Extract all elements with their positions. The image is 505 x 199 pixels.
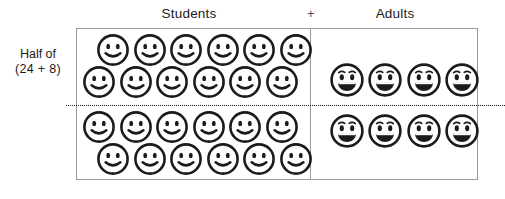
group-label-students: Students (162, 6, 217, 21)
caption-line-1: Half of (4, 47, 72, 62)
smiley-face-eyebrows-icon (329, 113, 365, 149)
smiley-face-icon (96, 33, 130, 67)
smiley-face-icon (96, 142, 130, 176)
smiley-face-icon (228, 110, 262, 144)
student-face-row (96, 33, 313, 67)
smiley-face-eyebrows-icon (406, 113, 442, 149)
smiley-face-icon (133, 33, 167, 67)
smiley-face-icon (169, 33, 203, 67)
smiley-face-icon (265, 65, 299, 99)
adult-face-row (329, 62, 480, 98)
student-face-row (82, 110, 299, 144)
smiley-face-icon (206, 33, 240, 67)
smiley-face-icon (82, 110, 116, 144)
smiley-face-icon (82, 65, 116, 99)
smiley-face-icon (242, 142, 276, 176)
smiley-face-icon (192, 65, 226, 99)
caption-half-of: Half of (24 + 8) (4, 47, 72, 77)
plus-operator: + (307, 6, 315, 21)
smiley-face-icon (265, 110, 299, 144)
smiley-face-eyebrows-icon (329, 62, 365, 98)
smiley-face-eyebrows-icon (406, 62, 442, 98)
group-label-adults: Adults (376, 6, 415, 21)
adult-face-row (329, 113, 480, 149)
smiley-face-eyebrows-icon (444, 62, 480, 98)
pictograph-diagram: Students + Adults Half of (24 + 8) (0, 0, 505, 199)
smiley-face-eyebrows-icon (367, 113, 403, 149)
student-face-row (96, 142, 313, 176)
smiley-face-icon (155, 65, 189, 99)
caption-line-2: (24 + 8) (4, 62, 72, 77)
student-face-row (82, 65, 299, 99)
panel-adults (310, 28, 478, 180)
half-divider-line (66, 105, 505, 106)
smiley-face-eyebrows-icon (444, 113, 480, 149)
smiley-face-icon (279, 33, 313, 67)
smiley-face-icon (279, 142, 313, 176)
smiley-face-icon (192, 110, 226, 144)
smiley-face-icon (206, 142, 240, 176)
smiley-face-icon (133, 142, 167, 176)
smiley-face-icon (228, 65, 262, 99)
smiley-face-icon (119, 110, 153, 144)
smiley-face-eyebrows-icon (367, 62, 403, 98)
smiley-face-icon (119, 65, 153, 99)
smiley-face-icon (242, 33, 276, 67)
smiley-face-icon (169, 142, 203, 176)
smiley-face-icon (155, 110, 189, 144)
